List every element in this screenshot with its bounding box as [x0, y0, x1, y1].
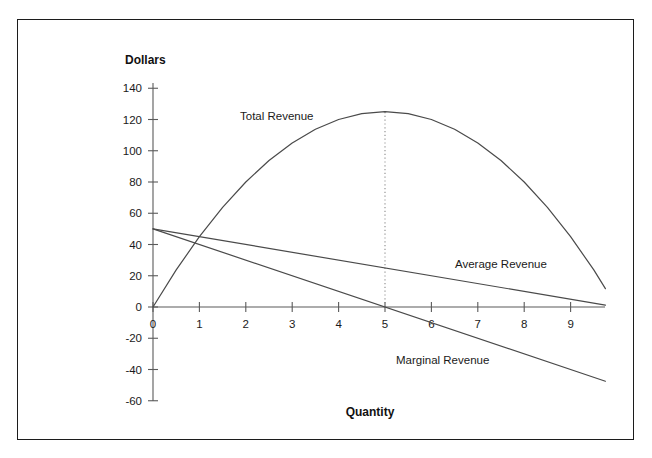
y-tick-label: 120	[123, 114, 142, 126]
x-tick-label: 2	[243, 318, 249, 330]
series-label-marginal-revenue: Marginal Revenue	[396, 354, 489, 366]
y-tick-label: 20	[129, 270, 142, 282]
x-tick-label: 3	[289, 318, 295, 330]
x-tick-label: 5	[382, 318, 388, 330]
x-axis-ticks: 0123456789	[150, 302, 574, 330]
series-label-average-revenue: Average Revenue	[455, 258, 547, 270]
y-tick-label: 0	[136, 301, 142, 313]
x-tick-label: 9	[567, 318, 573, 330]
revenue-curves-plot: Dollars Quantity -60-40-2002040608010012…	[0, 0, 652, 458]
chart-series-curves	[153, 112, 605, 382]
series-label-total-revenue: Total Revenue	[240, 110, 314, 122]
y-tick-label: 80	[129, 176, 142, 188]
y-tick-label: 140	[123, 82, 142, 94]
x-tick-label: 1	[196, 318, 202, 330]
chart-figure: Dollars Quantity -60-40-2002040608010012…	[0, 0, 652, 458]
y-tick-label: 100	[123, 145, 142, 157]
y-tick-label: -60	[125, 395, 142, 407]
y-axis-title: Dollars	[125, 53, 166, 67]
x-axis-title: Quantity	[346, 405, 395, 419]
x-tick-label: 4	[335, 318, 342, 330]
y-tick-label: 60	[129, 207, 142, 219]
y-tick-label: -40	[125, 364, 142, 376]
x-tick-label: 0	[150, 318, 156, 330]
x-tick-label: 7	[475, 318, 481, 330]
x-tick-label: 8	[521, 318, 527, 330]
curve-marginal-revenue	[153, 229, 605, 381]
y-tick-label: -20	[125, 332, 142, 344]
y-tick-label: 40	[129, 239, 142, 251]
curve-total-revenue	[153, 112, 605, 307]
